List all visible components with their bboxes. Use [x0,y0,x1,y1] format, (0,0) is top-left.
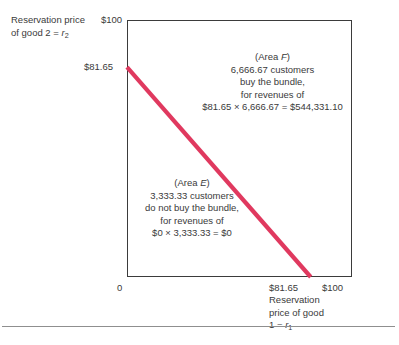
y-tick-label-100: $100 [101,14,122,26]
area-f-line-1: 6,666.67 customers [185,64,360,77]
area-e-heading-prefix: (Area [174,177,200,188]
area-f-line-4: $81.65 × 6,666.67 = $544,331.10 [185,101,360,114]
area-f-heading: (Area F) [185,51,360,64]
bottom-divider [2,326,395,327]
x-tick-label-100: $100 [322,282,343,294]
y-tick-label-81-65: $81.65 [84,61,113,73]
x-axis-title-line3: 1 = [269,319,285,330]
y-axis-title-line1: Reservation price [11,14,85,25]
area-e-heading: (Area E) [108,177,276,190]
x-axis-title-line2: price of good [269,307,324,318]
x-tick-label-81-65: $81.65 [269,282,298,294]
area-e-line-4: $0 × 3,333.33 = $0 [108,227,276,240]
y-axis-title: Reservation price of good 2 = r2 [11,14,85,40]
area-e-line-1: 3,333.33 customers [108,190,276,203]
area-f-line-2: buy the bundle, [185,76,360,89]
economics-figure: Reservation price of good 2 = r2 $100 $8… [0,0,399,345]
area-f-heading-suffix: ) [287,51,290,62]
area-e-line-3: for revenues of [108,215,276,228]
y-axis-title-line2: of good 2 = [11,27,61,38]
area-f-line-3: for revenues of [185,89,360,102]
origin-label: 0 [117,282,122,294]
y-axis-title-subscript: 2 [65,31,69,40]
x-axis-title-line1: Reservation [269,294,320,305]
x-axis-title-subscript: 1 [288,323,292,332]
area-f-heading-prefix: (Area [255,51,281,62]
area-f-annotation: (Area F) 6,666.67 customers buy the bund… [185,51,360,114]
area-e-line-2: do not buy the bundle, [108,202,276,215]
area-e-annotation: (Area E) 3,333.33 customers do not buy t… [108,177,276,240]
area-e-heading-suffix: ) [207,177,210,188]
